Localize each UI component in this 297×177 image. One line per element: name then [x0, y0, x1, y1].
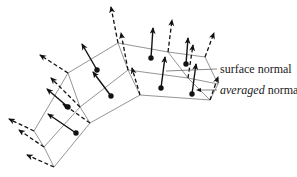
surface-normal-label: surface normal	[220, 63, 292, 75]
averaged-normals	[9, 7, 218, 167]
surface-normal-text: surface normal	[220, 62, 292, 76]
leader-lines	[166, 69, 217, 90]
normal-word: normal	[268, 83, 297, 97]
averaged-word: averaged	[220, 83, 265, 97]
averaged-normal-label: averaged normal	[220, 84, 297, 96]
